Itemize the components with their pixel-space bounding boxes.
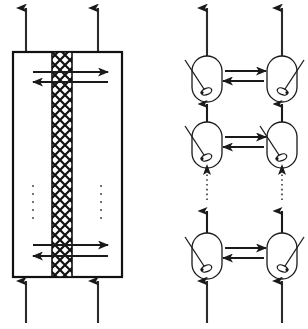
exchange-arrows-top xyxy=(223,71,266,81)
cross-hatched-membrane xyxy=(52,52,72,277)
left-panel-membrane-reactor xyxy=(13,8,122,323)
cell-middle-right xyxy=(260,122,297,168)
cell-row-top xyxy=(185,56,304,102)
figure-root xyxy=(0,0,308,329)
exchange-arrows-bottom xyxy=(223,248,266,258)
right-panel-cell-network xyxy=(185,8,304,323)
dotted-connector-left xyxy=(203,164,211,200)
cell-top-right xyxy=(267,56,304,102)
left-outlet-arrows xyxy=(26,8,98,52)
dotted-connector-right xyxy=(278,164,286,200)
cell-row-bottom xyxy=(185,233,304,279)
left-inlet-arrows xyxy=(26,281,98,323)
exchange-arrows-middle xyxy=(223,137,266,147)
cell-bottom-left xyxy=(185,233,222,279)
membrane-reactor-diagram xyxy=(0,0,308,329)
cell-bottom-right xyxy=(267,233,304,279)
cell-top-left xyxy=(185,56,222,102)
cell-row-middle xyxy=(185,122,297,168)
cell-middle-left xyxy=(185,122,222,168)
